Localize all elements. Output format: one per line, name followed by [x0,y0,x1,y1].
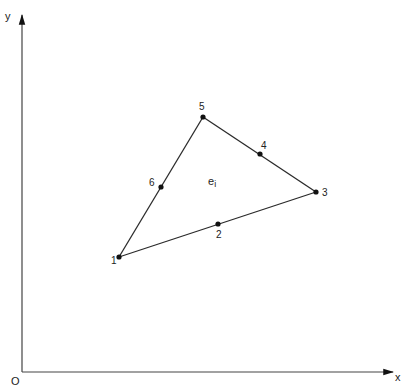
finite-element-diagram: y O x 123456 ei [0,0,407,389]
node-6 [158,184,163,189]
node-3 [313,189,318,194]
y-axis-label: y [5,10,11,22]
origin-label: O [11,375,20,387]
element-label-subscript: i [214,179,216,189]
element-nodes: 123456 [111,101,328,266]
node-label-2: 2 [216,229,222,240]
node-label-6: 6 [149,177,155,188]
node-label-5: 5 [199,101,205,112]
element-label: ei [208,175,216,189]
node-5 [200,114,205,119]
node-label-3: 3 [322,187,328,198]
node-1 [116,254,121,259]
x-axis-label: x [395,371,401,383]
node-4 [257,151,262,156]
node-label-1: 1 [111,255,117,266]
node-2 [215,221,220,226]
node-label-4: 4 [261,140,267,151]
